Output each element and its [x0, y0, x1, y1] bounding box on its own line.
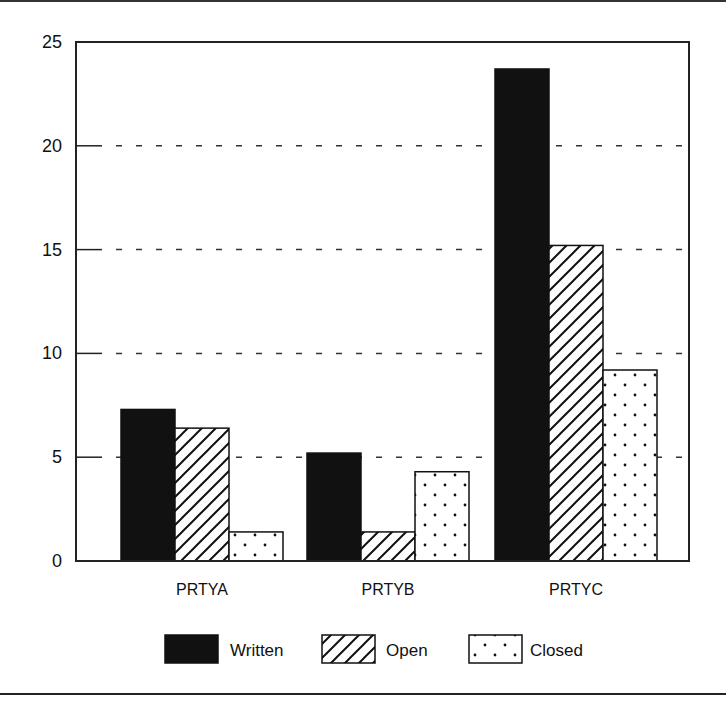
y-tick-label: 15	[42, 240, 62, 260]
bar-open-prtyb	[361, 532, 415, 561]
bar-chart: 0510152025 PRTYAPRTYBPRTYC WrittenOpenCl…	[0, 0, 726, 707]
legend-swatch-written	[165, 635, 218, 663]
bar-written-prtya	[121, 409, 175, 561]
y-tick-label: 25	[42, 32, 62, 52]
bottom-border	[0, 693, 726, 695]
y-tick-label: 5	[52, 447, 62, 467]
x-category-label: PRTYA	[176, 581, 228, 598]
legend-label-closed: Closed	[530, 641, 583, 660]
legend-swatch-open	[322, 635, 375, 663]
bar-open-prtya	[175, 428, 229, 561]
bar-open-prtyc	[549, 245, 603, 561]
bar-written-prtyc	[495, 69, 549, 561]
bar-closed-prtya	[229, 532, 283, 561]
legend-label-open: Open	[386, 641, 428, 660]
bars	[121, 69, 657, 561]
legend-swatch-closed	[469, 635, 522, 663]
y-tick-label: 20	[42, 136, 62, 156]
legend-label-written: Written	[230, 641, 284, 660]
x-category-label: PRTYC	[549, 581, 603, 598]
y-axis: 0510152025	[42, 32, 102, 571]
y-tick-label: 0	[52, 551, 62, 571]
x-category-label: PRTYB	[361, 581, 414, 598]
bar-closed-prtyb	[415, 472, 469, 561]
bar-closed-prtyc	[603, 370, 657, 561]
legend: WrittenOpenClosed	[165, 635, 583, 663]
x-axis: PRTYAPRTYBPRTYC	[176, 581, 603, 598]
bar-written-prtyb	[307, 453, 361, 561]
y-tick-label: 10	[42, 343, 62, 363]
